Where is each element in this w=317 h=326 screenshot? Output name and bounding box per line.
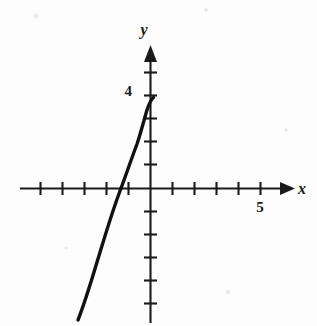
x-axis <box>20 182 295 195</box>
x-axis-right-arrow-icon <box>280 182 295 195</box>
coordinate-plane-svg: y x 4 5 <box>0 0 317 326</box>
y-axis-up-arrow-icon <box>144 45 157 62</box>
x-tick-label-5: 5 <box>256 199 264 215</box>
function-curve <box>78 98 154 321</box>
x-axis-label: x <box>297 180 306 197</box>
paper-texture <box>34 8 288 294</box>
y-axis <box>144 45 157 323</box>
y-axis-label: y <box>138 21 148 39</box>
graph-figure: y x 4 5 <box>0 0 317 326</box>
y-tick-label-4: 4 <box>125 83 133 99</box>
